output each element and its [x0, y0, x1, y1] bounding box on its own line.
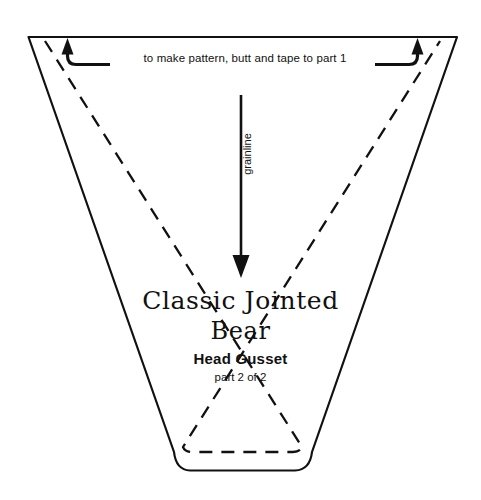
pattern-part-info: Head Gusset part 2 of 2 [0, 350, 481, 383]
pattern-sheet: to make pattern, butt and tape to part 1… [0, 0, 481, 500]
cut-line-outline [29, 37, 458, 471]
grainline-label: grainline [241, 114, 253, 194]
pattern-diagram [0, 0, 481, 500]
part-count-label: part 2 of 2 [0, 371, 481, 383]
tape-instruction-note: to make pattern, butt and tape to part 1 [120, 52, 370, 64]
part-name-label: Head Gusset [0, 350, 481, 367]
